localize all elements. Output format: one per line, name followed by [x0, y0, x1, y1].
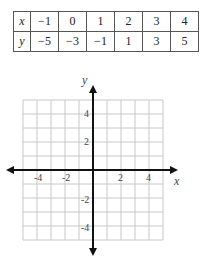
x-tick: -4	[34, 172, 42, 183]
arrow-right-icon	[170, 166, 178, 174]
y-tick: 4	[84, 108, 89, 119]
x-tick: 4	[146, 172, 151, 183]
y-tick: -2	[81, 194, 89, 205]
y-axis-label: y	[81, 73, 88, 87]
arrow-left-icon	[6, 166, 14, 174]
y-tick: 2	[84, 136, 89, 147]
y-tick: -4	[81, 222, 89, 233]
arrow-up-icon	[89, 85, 97, 93]
arrow-down-icon	[89, 248, 97, 256]
x-axis-label: x	[173, 174, 180, 188]
coordinate-grid: y x -4 -2 2 4 4 2 -2 -4	[0, 0, 213, 265]
x-tick: 2	[118, 172, 123, 183]
x-tick: -2	[62, 172, 70, 183]
